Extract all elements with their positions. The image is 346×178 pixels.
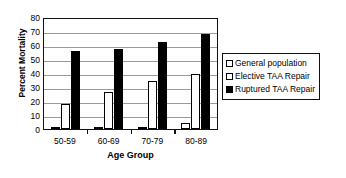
- x-axis-tick-mark: [131, 130, 132, 134]
- bar-group: [131, 19, 174, 129]
- legend-item: General population: [226, 57, 315, 70]
- legend-swatch-icon: [226, 86, 233, 93]
- bar: [191, 74, 200, 129]
- y-axis-tick-label: 30: [20, 84, 40, 93]
- bar: [181, 123, 190, 129]
- bar: [138, 127, 147, 129]
- legend-item: Elective TAA Repair: [226, 70, 315, 83]
- legend-swatch-icon: [226, 60, 233, 67]
- x-axis-tick-mark: [87, 130, 88, 134]
- x-axis-tick-label: 50-59: [43, 136, 87, 146]
- x-axis-title: Age Group: [43, 150, 218, 160]
- plot-area: [43, 18, 218, 130]
- bar: [51, 127, 60, 129]
- bar: [158, 42, 167, 129]
- bar: [71, 51, 80, 129]
- legend-label: Elective TAA Repair: [235, 72, 310, 81]
- y-axis-tick-labels: 01020304050607080: [20, 14, 40, 130]
- bar: [201, 34, 210, 129]
- bar: [114, 49, 123, 129]
- x-axis-tick-marks: [43, 130, 218, 134]
- bars-layer: [44, 19, 217, 129]
- y-axis-tick-label: 40: [20, 70, 40, 79]
- bar: [148, 81, 157, 129]
- x-axis-tick-labels: 50-5960-6970-7980-89: [43, 136, 218, 146]
- y-axis-tick-label: 20: [20, 98, 40, 107]
- x-axis-tick-label: 60-69: [87, 136, 131, 146]
- x-axis-tick-label: 70-79: [131, 136, 175, 146]
- x-axis-tick-label: 80-89: [174, 136, 218, 146]
- bar-group: [44, 19, 87, 129]
- bar: [94, 127, 103, 129]
- y-axis-tick-label: 50: [20, 56, 40, 65]
- bar-group: [87, 19, 130, 129]
- y-axis-tick-label: 80: [20, 14, 40, 23]
- bar: [104, 92, 113, 129]
- bar-chart-figure: Percent Mortality 01020304050607080 50-5…: [0, 0, 346, 178]
- y-axis-tick-label: 0: [20, 126, 40, 135]
- y-axis-tick-label: 70: [20, 28, 40, 37]
- x-axis-tick-mark: [174, 130, 175, 134]
- legend-swatch-icon: [226, 73, 233, 80]
- y-axis-tick-label: 60: [20, 42, 40, 51]
- legend-item: Ruptured TAA Repair: [226, 83, 315, 96]
- legend-label: Ruptured TAA Repair: [235, 85, 315, 94]
- bar-group: [174, 19, 217, 129]
- chart-legend: General populationElective TAA RepairRup…: [222, 53, 320, 100]
- y-axis-tick-label: 10: [20, 112, 40, 121]
- bar: [61, 104, 70, 129]
- legend-label: General population: [235, 59, 307, 68]
